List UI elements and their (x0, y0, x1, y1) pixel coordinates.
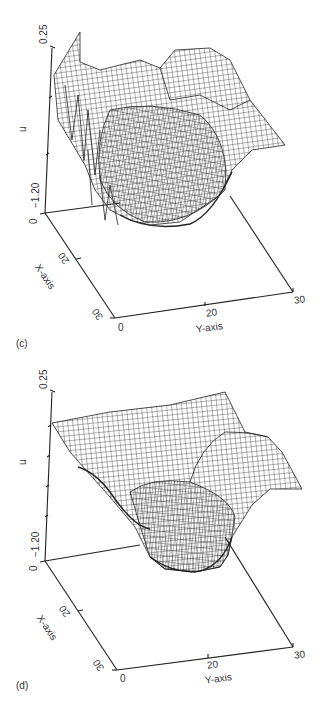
surface-plot-d (0, 357, 322, 714)
z-axis-label: u (17, 459, 28, 465)
z-axis-bottom-tick-label: −1.20 (30, 532, 41, 557)
panel-label-c: (c) (16, 338, 28, 349)
z-axis-top-tick-label: 0.25 (38, 370, 49, 389)
z-axis-top-tick-label: 0.25 (38, 25, 49, 44)
panel-label-d: (d) (16, 680, 28, 691)
y-axis-tick-30: 30 (293, 293, 306, 305)
y-axis-tick-20: 20 (206, 658, 219, 670)
surface-mesh-d (52, 392, 302, 572)
surface-plot-c (0, 0, 322, 357)
y-axis-tick-0: 0 (120, 673, 126, 684)
y-axis-tick-30: 30 (293, 648, 306, 660)
surface-mesh-c (54, 32, 285, 227)
x-axis-tick-0: 0 (28, 218, 39, 224)
panel-d: 0.25 u −1.20 0 20 X-axis 30 0 20 Y-axis … (0, 357, 322, 714)
z-axis-bottom-tick-label: −1.20 (30, 183, 41, 208)
y-axis-tick-0: 0 (118, 322, 124, 333)
panel-c: 0.25 u −1.20 0 20 X-axis 30 0 20 Y-axis … (0, 0, 322, 357)
y-axis-tick-20: 20 (205, 306, 218, 318)
x-axis-tick-0: 0 (28, 565, 39, 571)
z-axis-label: u (17, 126, 28, 132)
